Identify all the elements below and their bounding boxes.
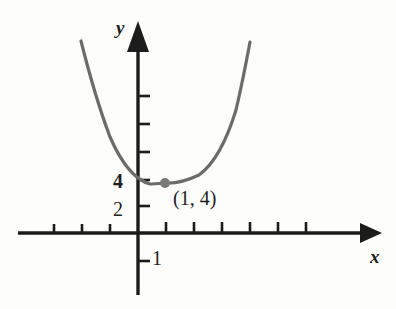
parabola-curve [81,41,250,184]
x-tick-label-1: 1 [152,248,162,268]
x-axis-arrowhead [360,223,382,243]
vertex-point-label: (1, 4) [173,188,216,208]
y-axis-arrowhead [127,21,149,52]
graph-figure: y x 4 2 1 (1, 4) [0,0,396,309]
graph-canvas [0,0,396,309]
y-axis-ticks-positive [138,96,150,206]
y-axis-label: y [116,18,124,37]
x-axis-label: x [370,247,380,266]
y-tick-label-2: 2 [113,199,123,219]
y-tick-label-4: 4 [113,171,123,191]
vertex-point-marker [160,178,170,188]
